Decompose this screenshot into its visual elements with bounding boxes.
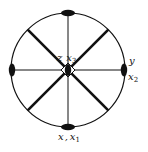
two-fold-axis-left-icon	[9, 64, 15, 77]
bottom-label: x,x1	[58, 131, 80, 144]
two-fold-axis-bottom-icon	[61, 124, 75, 130]
stereogram-diagram: zx3 y x2 x,x1	[0, 0, 148, 152]
center-label: zx3	[56, 52, 76, 65]
right-label-bottom: x2	[128, 71, 138, 84]
two-fold-axis-right-icon	[121, 64, 127, 77]
two-fold-axis-top-icon	[61, 10, 75, 16]
right-label-top: y	[128, 55, 135, 66]
